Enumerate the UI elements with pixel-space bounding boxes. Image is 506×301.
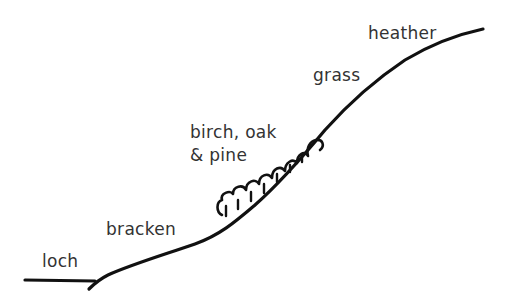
label-trees-line1: birch, oak — [190, 124, 277, 141]
hillside-profile-line — [25, 280, 95, 281]
hillside-slope-line — [89, 29, 483, 289]
hillside-diagram: loch bracken birch, oak & pine grass hea… — [0, 0, 506, 301]
label-grass: grass — [313, 67, 360, 84]
label-trees-line2: & pine — [190, 147, 247, 164]
label-loch: loch — [42, 253, 78, 270]
label-heather: heather — [368, 25, 437, 42]
label-bracken: bracken — [106, 221, 176, 238]
